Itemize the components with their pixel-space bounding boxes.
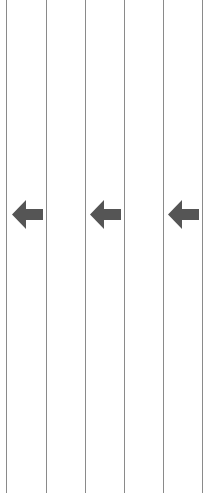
vertical-divider-3 — [85, 0, 86, 493]
arrow-left-button-3[interactable] — [168, 200, 199, 229]
arrow-left-icon — [90, 200, 121, 229]
vertical-divider-1 — [6, 0, 7, 493]
arrow-left-button-1[interactable] — [12, 200, 43, 229]
arrow-left-icon — [168, 200, 199, 229]
vertical-divider-2 — [46, 0, 47, 493]
vertical-divider-6 — [202, 0, 203, 493]
vertical-divider-5 — [163, 0, 164, 493]
vertical-divider-4 — [124, 0, 125, 493]
arrow-left-icon — [12, 200, 43, 229]
arrow-left-button-2[interactable] — [90, 200, 121, 229]
